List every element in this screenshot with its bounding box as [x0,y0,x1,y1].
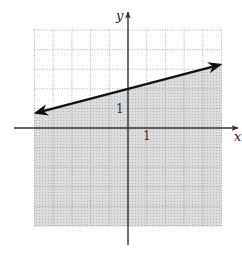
x-tick-label-1: 1 [143,129,151,143]
inequality-graph: y x 1 1 [0,0,242,256]
y-axis-label: y [115,8,124,23]
x-axis-label: x [234,129,242,144]
y-tick-label-1: 1 [116,102,124,116]
